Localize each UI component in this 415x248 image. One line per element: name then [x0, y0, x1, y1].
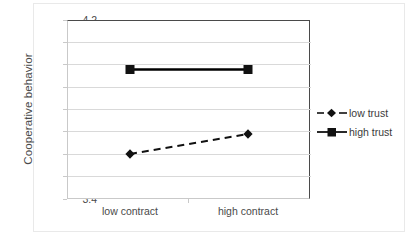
- legend-item-low-trust[interactable]: low trust: [316, 103, 411, 122]
- x-tick-mark-mid: [188, 199, 189, 203]
- square-marker-icon: [316, 125, 348, 139]
- low-trust-diamond-marker-high-contract: [243, 129, 252, 139]
- legend-key-high-trust: [316, 125, 348, 139]
- low-trust-line: [130, 134, 248, 154]
- legend-label-low-trust: low trust: [348, 107, 388, 119]
- legend-key-low-trust: [316, 106, 348, 120]
- y-axis-title: Cooperative behavior: [22, 29, 34, 189]
- series-low-trust: [125, 129, 252, 159]
- series-layer: [67, 20, 310, 199]
- y-tick-mark-3.4: [63, 199, 67, 200]
- series-high-trust: [126, 65, 253, 74]
- x-tick-label-high-contract: high contract: [188, 205, 308, 217]
- high-trust-square-marker-high-contract: [244, 65, 253, 74]
- high-trust-square-marker-low-contract: [126, 65, 135, 74]
- diamond-marker-icon: [316, 106, 348, 120]
- line-chart: Cooperative behavior 4.2 4.1 4 3.9 3.8 3…: [0, 0, 415, 248]
- legend-item-high-trust[interactable]: high trust: [316, 122, 411, 141]
- low-trust-diamond-marker-low-contract: [125, 149, 134, 159]
- chart-legend: low trust high trust: [316, 103, 411, 141]
- legend-label-high-trust: high trust: [348, 126, 392, 138]
- x-tick-label-low-contract: low contract: [70, 205, 190, 217]
